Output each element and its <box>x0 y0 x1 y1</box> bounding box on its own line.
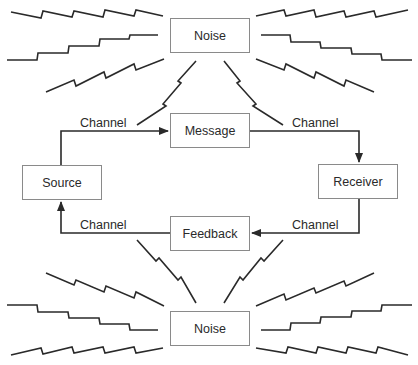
noise-top-box: Noise <box>170 18 250 53</box>
noise-zigzag <box>256 59 374 92</box>
source-box: Source <box>22 165 102 200</box>
noise-zigzag <box>11 347 163 355</box>
channel-label-bottom-left: Channel <box>80 218 127 232</box>
noise-zigzag <box>46 59 164 92</box>
edge-source-message <box>61 131 168 165</box>
communication-diagram: Noise Message Source Receiver Feedback N… <box>0 0 418 365</box>
noise-zigzag <box>256 273 374 306</box>
channel-label-bottom-right: Channel <box>292 218 339 232</box>
node-label: Receiver <box>333 175 382 189</box>
node-label: Source <box>42 176 82 190</box>
node-label: Noise <box>194 29 226 43</box>
feedback-box: Feedback <box>170 216 250 251</box>
noise-zigzag <box>46 273 164 306</box>
noise-zigzag <box>7 35 158 60</box>
noise-zigzag <box>11 10 163 18</box>
node-label: Noise <box>194 322 226 336</box>
noise-zigzag <box>261 35 412 60</box>
noise-zigzag <box>256 10 408 17</box>
edge-message-receiver <box>250 131 359 162</box>
noise-bottom-box: Noise <box>170 311 250 346</box>
node-label: Message <box>185 124 236 138</box>
node-label: Feedback <box>183 227 238 241</box>
receiver-box: Receiver <box>318 164 398 199</box>
message-box: Message <box>170 113 250 148</box>
noise-zigzag <box>7 305 158 330</box>
channel-label-top-right: Channel <box>292 116 339 130</box>
noise-zigzag <box>256 347 408 355</box>
channel-label-top-left: Channel <box>80 116 127 130</box>
noise-zigzag <box>261 305 412 330</box>
